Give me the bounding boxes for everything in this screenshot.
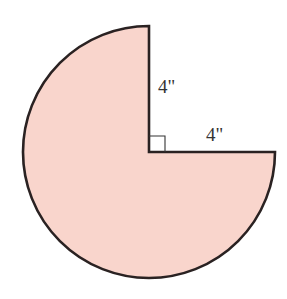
sector-shape [23,26,275,278]
vertical-radius-label: 4" [158,77,175,96]
horizontal-radius-label: 4" [206,125,223,144]
three-quarter-circle-diagram [0,0,287,299]
right-angle-marker [149,136,165,152]
